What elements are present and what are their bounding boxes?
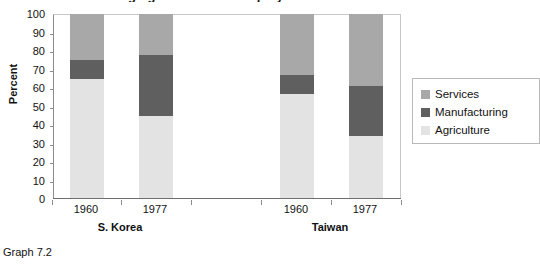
y-tick-mark xyxy=(50,108,54,109)
bar-stack[interactable] xyxy=(280,14,314,199)
bar-segment-services[interactable] xyxy=(70,14,104,60)
y-tick-mark xyxy=(50,163,54,164)
x-year-label: 1960 xyxy=(56,203,116,215)
bar-segment-manufacturing[interactable] xyxy=(349,86,383,136)
y-tick-label: 100 xyxy=(17,9,45,19)
bar-segment-agriculture[interactable] xyxy=(280,94,314,199)
y-tick-label: 40 xyxy=(17,120,45,130)
figure-caption: Graph 7.2 xyxy=(3,246,52,258)
bar-segment-services[interactable] xyxy=(280,14,314,75)
legend-label: Agriculture xyxy=(435,124,490,136)
bar-segment-manufacturing[interactable] xyxy=(70,60,104,79)
bar-stack[interactable] xyxy=(139,14,173,199)
x-group-label: Taiwan xyxy=(270,221,390,233)
y-tick-label: 20 xyxy=(17,157,45,167)
bar-segment-services[interactable] xyxy=(349,14,383,86)
y-tick-label: 80 xyxy=(17,46,45,56)
y-tick-mark xyxy=(50,89,54,90)
bar-segment-agriculture[interactable] xyxy=(139,116,173,199)
y-tick-label: 10 xyxy=(17,176,45,186)
x-tick-mark xyxy=(261,200,262,205)
y-tick-label: 90 xyxy=(17,28,45,38)
y-tick-label: 60 xyxy=(17,83,45,93)
legend-swatch-icon xyxy=(421,126,430,135)
legend-swatch-icon xyxy=(421,90,430,99)
bar-segment-manufacturing[interactable] xyxy=(139,55,173,116)
bar-stack[interactable] xyxy=(70,14,104,199)
y-axis-tick-labels: 1009080706050403020100 xyxy=(17,0,45,240)
x-group-label: S. Korea xyxy=(60,221,180,233)
y-tick-label: 0 xyxy=(17,194,45,204)
y-tick-label: 70 xyxy=(17,65,45,75)
x-axis-line xyxy=(53,198,401,199)
chart-figure: Percent 1009080706050403020100 196019771… xyxy=(0,0,527,240)
legend-item[interactable]: Agriculture xyxy=(421,121,539,139)
x-tick-mark xyxy=(191,200,192,205)
legend-swatch-icon xyxy=(421,108,430,117)
x-year-label: 1977 xyxy=(335,203,395,215)
y-tick-mark xyxy=(50,52,54,53)
bar-segment-agriculture[interactable] xyxy=(349,136,383,199)
bar-segment-agriculture[interactable] xyxy=(70,79,104,199)
bar-stack[interactable] xyxy=(349,14,383,199)
y-tick-mark xyxy=(50,71,54,72)
legend-label: Services xyxy=(435,88,479,100)
y-tick-label: 50 xyxy=(17,102,45,112)
bar-segment-manufacturing[interactable] xyxy=(280,75,314,94)
chart-legend: ServicesManufacturingAgriculture xyxy=(412,78,540,144)
y-tick-mark xyxy=(50,182,54,183)
x-year-label: 1960 xyxy=(266,203,326,215)
y-tick-mark xyxy=(50,126,54,127)
y-tick-label: 30 xyxy=(17,139,45,149)
legend-item[interactable]: Manufacturing xyxy=(421,103,539,121)
y-tick-mark xyxy=(50,34,54,35)
legend-item[interactable]: Services xyxy=(421,85,539,103)
x-tick-mark xyxy=(52,200,53,205)
plot-area xyxy=(53,14,401,199)
x-tick-mark xyxy=(401,200,402,205)
legend-label: Manufacturing xyxy=(435,106,508,118)
y-tick-mark xyxy=(50,145,54,146)
x-year-label: 1977 xyxy=(125,203,185,215)
x-tick-mark xyxy=(331,200,332,205)
x-tick-mark xyxy=(121,200,122,205)
bar-segment-services[interactable] xyxy=(139,14,173,55)
